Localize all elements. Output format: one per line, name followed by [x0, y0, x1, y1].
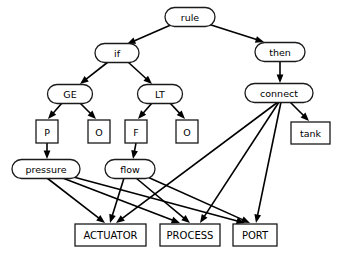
arrowhead-icon	[255, 36, 264, 42]
arrowhead-icon	[254, 214, 261, 223]
edge-line	[208, 24, 257, 40]
arrowhead-icon	[109, 214, 115, 223]
node-then[interactable]: then	[255, 43, 305, 62]
node-connect[interactable]: connect	[245, 84, 313, 103]
node-pressure[interactable]: pressure	[12, 160, 80, 179]
edge-line	[80, 103, 91, 114]
arrowhead-icon	[241, 216, 250, 223]
node-label-actuator: ACTUATOR	[83, 230, 137, 241]
nodes-layer: ruleifthenGELTconnectPOFOtankpressureflo…	[12, 8, 330, 247]
edge-line	[204, 102, 279, 217]
node-label-if: if	[114, 48, 121, 59]
edge-connect-to-tank	[290, 102, 309, 121]
edge-line	[143, 175, 244, 220]
edge-ge-to-p	[48, 103, 62, 119]
arrowhead-icon	[131, 150, 138, 159]
edge-line	[47, 178, 99, 219]
node-actuator[interactable]: ACTUATOR	[75, 224, 146, 246]
node-label-process: PROCESS	[167, 230, 214, 241]
arrowhead-icon	[171, 217, 180, 223]
edge-line	[53, 103, 62, 114]
node-label-flow: flow	[120, 164, 140, 175]
rule-parse-tree-diagram: ruleifthenGELTconnectPOFOtankpressureflo…	[0, 0, 340, 258]
edge-line	[290, 102, 304, 116]
edge-line	[128, 62, 147, 79]
edge-f-to-flow	[131, 143, 138, 159]
node-port[interactable]: PORT	[233, 224, 277, 246]
graph-canvas: ruleifthenGELTconnectPOFOtankpressureflo…	[0, 0, 340, 258]
node-label-lt: LT	[155, 89, 165, 100]
edge-rule-to-if	[127, 24, 173, 44]
edge-line	[170, 103, 180, 114]
edge-line	[66, 175, 238, 221]
node-f[interactable]: F	[125, 120, 147, 143]
node-label-connect: connect	[260, 88, 298, 99]
node-lt[interactable]: LT	[138, 85, 183, 104]
node-label-p: P	[44, 127, 50, 138]
edge-rule-to-then	[208, 24, 264, 43]
edge-if-to-lt	[128, 62, 152, 84]
node-if[interactable]: if	[95, 44, 139, 63]
edge-lt-to-f	[138, 103, 152, 119]
arrowhead-icon	[200, 214, 207, 223]
arrowhead-icon	[116, 215, 125, 223]
edge-ge-to-o1	[80, 103, 96, 119]
edge-then-to-connect	[277, 62, 284, 83]
node-label-tank: tank	[300, 128, 322, 139]
node-label-o2: O	[183, 127, 190, 138]
edge-p-to-pressure	[44, 143, 51, 159]
edge-connect-to-process	[200, 102, 279, 223]
node-o2[interactable]: O	[176, 120, 198, 143]
edge-line	[86, 62, 108, 80]
node-label-pressure: pressure	[25, 164, 66, 175]
node-label-rule: rule	[181, 12, 200, 23]
edge-line	[143, 103, 152, 114]
edge-if-to-ge	[80, 62, 108, 84]
node-o1[interactable]: O	[88, 120, 110, 143]
edge-line	[136, 178, 185, 219]
node-label-ge: GE	[63, 89, 76, 100]
arrowhead-icon	[44, 151, 51, 160]
node-label-o1: O	[95, 127, 102, 138]
node-p[interactable]: P	[36, 120, 58, 143]
node-label-then: then	[269, 47, 291, 58]
edge-pressure-to-port	[66, 175, 245, 224]
edge-line	[257, 102, 281, 216]
edge-lt-to-o2	[170, 103, 185, 119]
arrowhead-icon	[277, 75, 284, 84]
node-label-port: PORT	[242, 230, 269, 241]
edge-line	[133, 24, 173, 41]
node-tank[interactable]: tank	[291, 122, 330, 144]
node-flow[interactable]: flow	[105, 160, 155, 179]
node-rule[interactable]: rule	[165, 8, 215, 27]
node-process[interactable]: PROCESS	[160, 224, 220, 246]
node-label-f: F	[133, 127, 138, 138]
edge-pressure-to-actuator	[47, 178, 105, 223]
node-ge[interactable]: GE	[48, 85, 93, 104]
